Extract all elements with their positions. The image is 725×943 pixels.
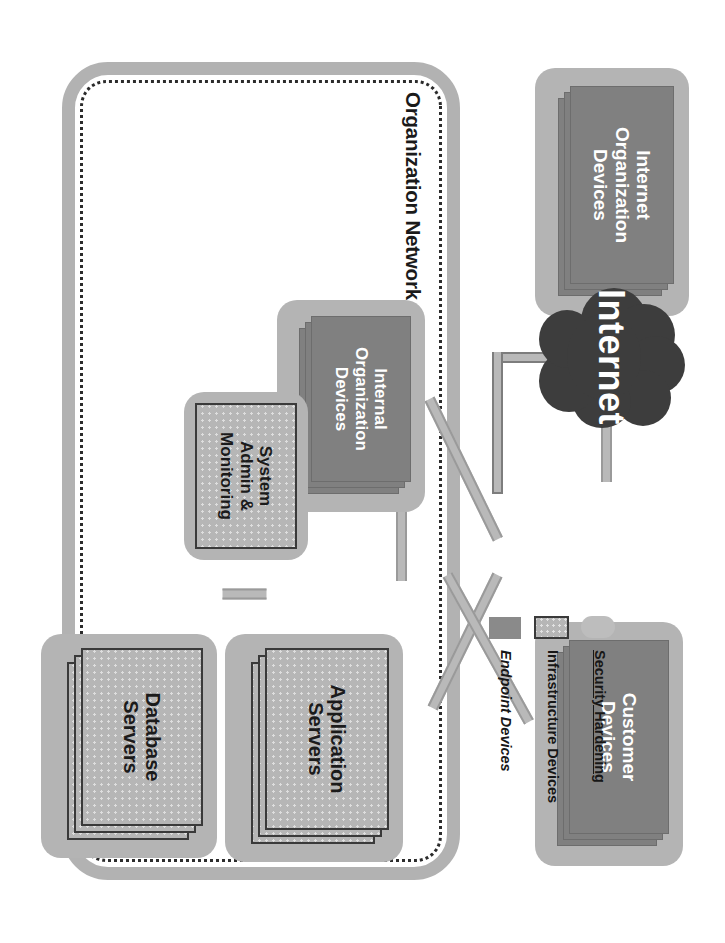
- label-line-3: Monitoring: [217, 432, 236, 520]
- node-internet-cloud[interactable]: Internet: [535, 284, 687, 430]
- label-line-1: Application: [327, 685, 349, 794]
- legend-label-endpoint-devices: Endpoint Devices: [498, 650, 514, 772]
- diagram-rotation-wrapper: Organization Network Internet Organizati…: [0, 0, 725, 943]
- link-internet-to-application-elbow-h-outline: [492, 352, 503, 494]
- legend-label-infrastructure-devices: Infrastructure Devices: [545, 650, 561, 803]
- label-line-2: Organization: [352, 347, 371, 451]
- legend-swatch-infrastructure-devices: [534, 616, 569, 639]
- label-line-3: Devices: [332, 367, 351, 431]
- label-line-1: Internal: [371, 368, 390, 429]
- legend-item-infrastructure-devices: Infrastructure Devices: [532, 616, 572, 852]
- legend-item-endpoint-devices: Endpoint Devices: [485, 616, 525, 852]
- diagram-canvas: Organization Network Internet Organizati…: [0, 0, 725, 943]
- node-internet-label: Internet: [535, 284, 687, 430]
- label-line-2: Admin &: [237, 441, 256, 511]
- legend-item-security-hardening: Security Hardening: [579, 616, 619, 852]
- label-line-3: Devices: [590, 149, 611, 221]
- node-system-admin-card: System Admin & Monitoring: [195, 403, 297, 549]
- node-application-servers-hardening[interactable]: Application Servers: [225, 634, 403, 862]
- legend: Security Hardening Infrastructure Device…: [479, 616, 619, 852]
- label-line-1: Database: [142, 693, 164, 782]
- organization-network-label: Organization Network: [401, 92, 425, 300]
- node-database-servers-hardening[interactable]: Database Servers: [41, 634, 217, 858]
- node-application-servers-stack: Application Servers: [225, 634, 403, 862]
- legend-swatch-security-hardening: [581, 616, 615, 638]
- node-application-servers-label: Application Servers: [267, 650, 387, 828]
- node-system-admin-label: System Admin & Monitoring: [197, 405, 295, 547]
- node-system-admin-hardening[interactable]: System Admin & Monitoring: [184, 392, 308, 560]
- label-line-2: Servers: [120, 700, 142, 773]
- legend-label-security-hardening: Security Hardening: [592, 650, 608, 783]
- card-front: Internet Organization Devices: [570, 86, 674, 284]
- node-database-servers-label: Database Servers: [83, 650, 201, 824]
- label-line-2: Organization: [612, 127, 633, 243]
- node-internet-org-devices-label: Internet Organization Devices: [571, 87, 673, 283]
- card-front: Internal Organization Devices: [311, 316, 411, 482]
- label-line-1: System: [256, 446, 275, 506]
- card-front: Application Servers: [265, 648, 389, 830]
- label-line-1: Customer: [619, 693, 640, 782]
- node-internal-org-devices-label: Internal Organization Devices: [312, 317, 410, 481]
- link-application-servers-to-database-servers: [223, 589, 267, 600]
- legend-swatch-endpoint-devices: [489, 617, 521, 639]
- card-front: Database Servers: [81, 648, 203, 826]
- label-line-2: Servers: [305, 702, 327, 775]
- node-internet-org-devices-hardening[interactable]: Internet Organization Devices: [535, 68, 689, 316]
- node-internet-org-devices-stack: Internet Organization Devices: [535, 68, 689, 316]
- node-database-servers-stack: Database Servers: [41, 634, 217, 858]
- label-line-1: Internet: [633, 150, 654, 220]
